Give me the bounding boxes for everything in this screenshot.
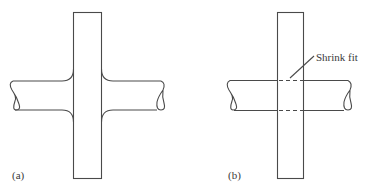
panel-a-shaft-top-right [102, 69, 162, 81]
panel-b-disk [278, 13, 304, 179]
panel-a-right-break-icon [157, 81, 165, 110]
shrink-fit-annotation: Shrink fit [316, 52, 358, 63]
panel-b-right-break-icon [344, 81, 352, 111]
panel-a-label: (a) [12, 170, 24, 181]
panel-a-drawing [10, 13, 164, 179]
panel-a-left-break-icon [10, 81, 19, 110]
panel-a-shaft-bottom-right [102, 110, 158, 122]
diagram-canvas [0, 0, 369, 194]
panel-b-left-break-icon [227, 81, 236, 111]
shaft-disk-figure: (a) (b) Shrink fit [0, 0, 369, 194]
panel-b-leader-line [290, 56, 314, 78]
panel-a-disk [74, 13, 102, 179]
panel-a-shaft-bottom-left [15, 110, 74, 122]
panel-b-label: (b) [228, 170, 241, 181]
panel-b-drawing [227, 13, 351, 179]
panel-a-shaft-top-left [13, 69, 74, 81]
